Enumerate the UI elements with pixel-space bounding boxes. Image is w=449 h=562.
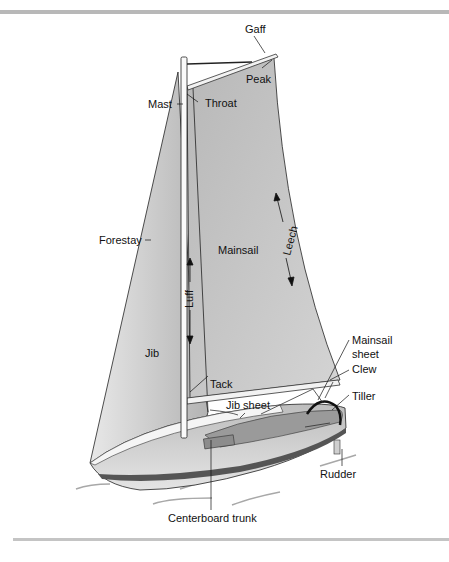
bottom-rule (13, 538, 449, 541)
mainsail-sheet-label-1: Mainsail (352, 334, 392, 346)
throat-label: Throat (205, 97, 237, 109)
mainsail (187, 58, 340, 398)
rudder (334, 440, 340, 454)
forestay-label: Forestay (99, 234, 142, 246)
mast (181, 57, 187, 438)
mainsail-label: Mainsail (218, 244, 258, 256)
gaff-label: Gaff (245, 23, 267, 35)
sailboat-diagram: Luff Leech Gaff Peak Mast Throat Foresta… (0, 0, 449, 562)
tack-label: Tack (210, 378, 233, 390)
jib-label: Jib (145, 347, 159, 359)
mainsail-sheet-label-2: sheet (352, 348, 379, 360)
luff-label: Luff (183, 289, 195, 308)
topping-lift (187, 62, 252, 64)
tiller-label: Tiller (352, 390, 376, 402)
clew-label: Clew (352, 363, 377, 375)
jib-sheet-label: Jib sheet (226, 399, 270, 411)
peak-label: Peak (246, 73, 272, 85)
mast-label: Mast (148, 98, 172, 110)
centerboard-trunk-label: Centerboard trunk (168, 512, 257, 524)
rudder-label: Rudder (320, 468, 356, 480)
